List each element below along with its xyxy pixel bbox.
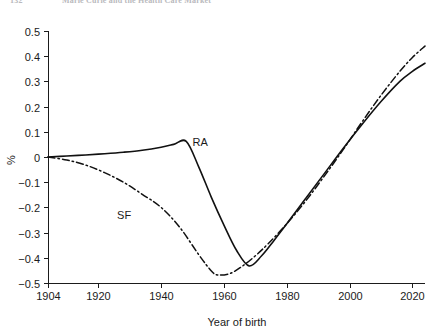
y-tick-label: −0.2 — [18, 202, 40, 214]
x-tick-label: 2000 — [338, 290, 362, 302]
x-tick-label: 1960 — [212, 290, 236, 302]
x-tick-label: 1980 — [275, 290, 299, 302]
y-tick-label: −0.4 — [18, 253, 40, 265]
y-tick-label: −0.3 — [18, 228, 40, 240]
y-tick-label: 0.4 — [25, 51, 40, 63]
series-label-ra: RA — [193, 136, 209, 148]
y-tick-label: 0 — [34, 152, 40, 164]
y-tick-label: 0.2 — [25, 102, 40, 114]
y-tick-label: −0.5 — [18, 278, 40, 290]
x-tick-label: 2020 — [400, 290, 424, 302]
y-tick-label: 0.1 — [25, 127, 40, 139]
y-axis-title: % — [5, 155, 17, 165]
chart-series-group — [48, 46, 425, 275]
series-line-ra — [48, 63, 425, 266]
x-tick-label: 1940 — [149, 290, 173, 302]
x-axis-title: Year of birth — [208, 316, 267, 328]
x-tick-label: 1920 — [86, 290, 110, 302]
y-tick-label: 0.3 — [25, 76, 40, 88]
x-axis-ticks: 1904192019401960198020002020 — [36, 284, 424, 302]
line-chart-figure: −0.5−0.4−0.3−0.2−0.100.10.20.30.40.5 190… — [0, 0, 432, 333]
series-line-sf — [48, 46, 425, 275]
x-tick-label: 1904 — [36, 290, 60, 302]
chart-plot-area: −0.5−0.4−0.3−0.2−0.100.10.20.30.40.5 190… — [0, 0, 432, 333]
y-tick-label: 0.5 — [25, 26, 40, 38]
series-label-sf: SF — [117, 209, 131, 221]
y-axis-ticks: −0.5−0.4−0.3−0.2−0.100.10.20.30.40.5 — [18, 26, 48, 290]
y-tick-label: −0.1 — [18, 177, 40, 189]
